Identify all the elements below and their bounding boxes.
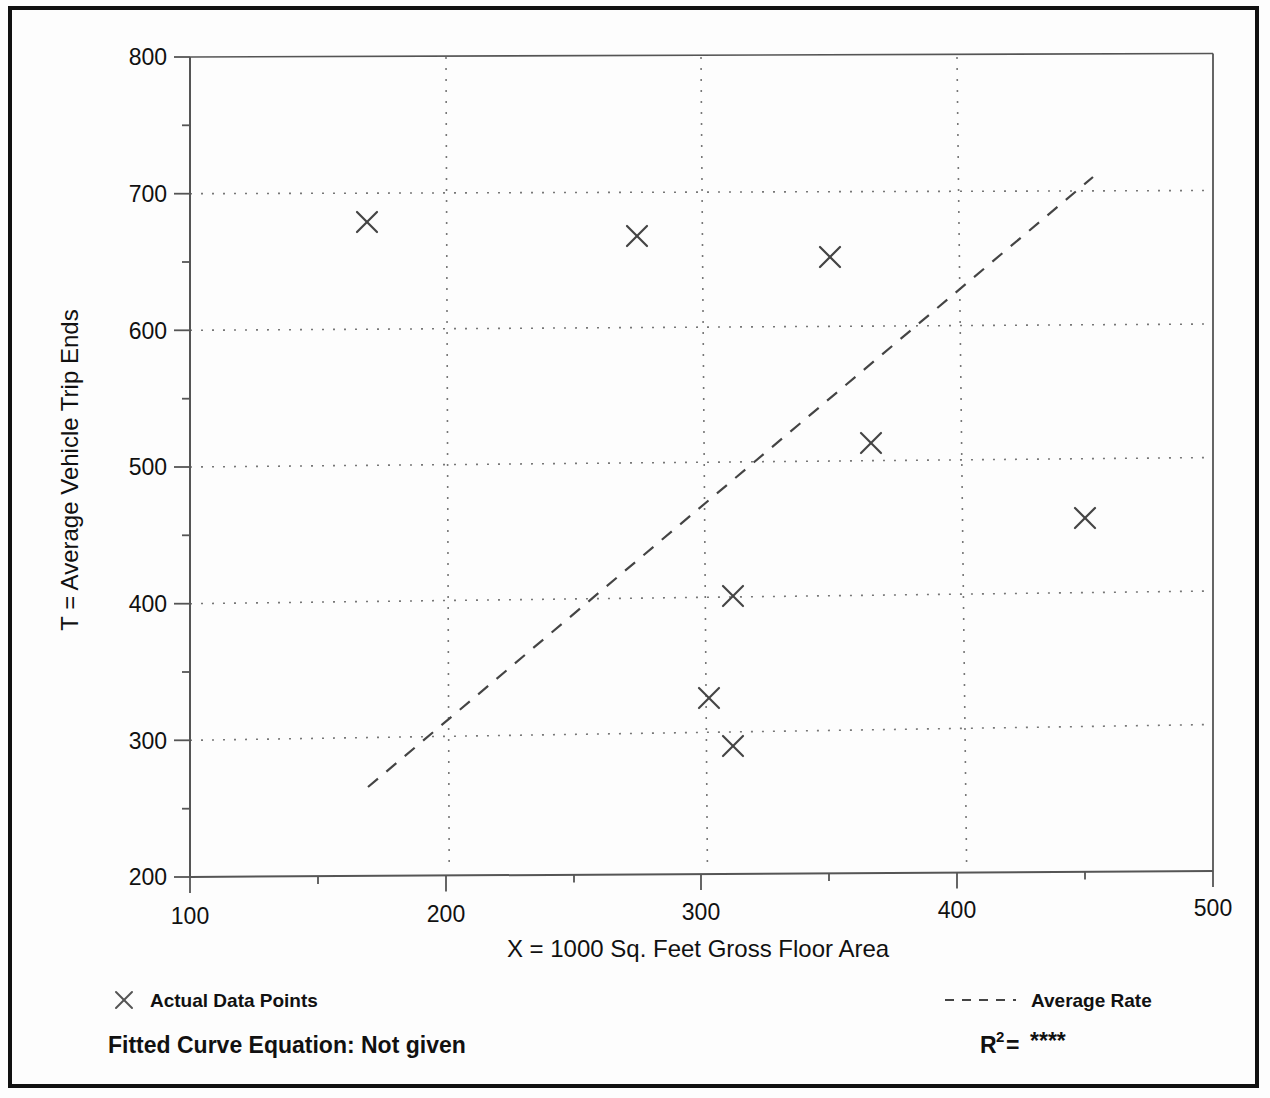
r-squared-value: ****	[1030, 1028, 1066, 1054]
y-tick-label-700: 700	[129, 181, 167, 207]
y-tick-label-300: 300	[129, 728, 167, 754]
legend-marker-entry: Actual Data Points	[116, 990, 318, 1011]
x-tick-label-300: 300	[682, 899, 720, 925]
plot-area	[190, 57, 1213, 877]
y-tick-label-500: 500	[129, 454, 167, 480]
x-tick-label-100: 100	[171, 903, 209, 929]
x-tick-label-400: 400	[938, 897, 976, 923]
x-axis-title: X = 1000 Sq. Feet Gross Floor Area	[507, 935, 890, 962]
y-axis-ticks	[174, 57, 190, 877]
legend-marker-label: Actual Data Points	[150, 990, 318, 1011]
legend-line-entry: Average Rate	[945, 990, 1152, 1011]
r-squared-base: R	[980, 1032, 997, 1058]
y-tick-label-800: 800	[129, 44, 167, 70]
x-axis-tick-labels: 100 200 300 400 500	[171, 895, 1232, 929]
plot-border-top	[190, 54, 1213, 58]
scatter-chart: 800 700 600 500 400 300 200 100 200 300 …	[0, 0, 1270, 1098]
r-squared-exponent: 2	[996, 1028, 1004, 1045]
x-tick-label-200: 200	[427, 901, 465, 927]
y-axis-title: T = Average Vehicle Trip Ends	[56, 309, 83, 630]
y-tick-label-600: 600	[129, 318, 167, 344]
r-squared-equals: =	[1006, 1032, 1019, 1058]
legend-line-label: Average Rate	[1031, 990, 1152, 1011]
x-tick-label-500: 500	[1194, 895, 1232, 921]
figure-page: 800 700 600 500 400 300 200 100 200 300 …	[0, 0, 1270, 1098]
y-axis-tick-labels: 800 700 600 500 400 300 200	[129, 44, 167, 890]
y-tick-label-200: 200	[129, 864, 167, 890]
y-tick-label-400: 400	[129, 591, 167, 617]
x-marker-icon	[116, 992, 132, 1008]
fitted-curve-equation: Fitted Curve Equation: Not given	[108, 1032, 466, 1058]
r-squared-annotation: R 2 = ****	[980, 1028, 1066, 1058]
